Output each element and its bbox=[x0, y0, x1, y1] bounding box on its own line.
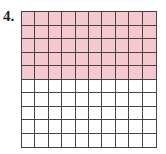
unshaded-cell bbox=[22, 80, 35, 94]
shaded-cell bbox=[143, 12, 156, 26]
shaded-cell bbox=[143, 26, 156, 40]
unshaded-cell bbox=[129, 120, 142, 134]
shaded-cell bbox=[129, 66, 142, 80]
unshaded-cell bbox=[76, 134, 89, 148]
unshaded-cell bbox=[35, 107, 48, 121]
shaded-cell bbox=[102, 53, 115, 67]
shaded-cell bbox=[89, 12, 102, 26]
unshaded-cell bbox=[89, 93, 102, 107]
shaded-cell bbox=[89, 39, 102, 53]
shaded-cell bbox=[22, 39, 35, 53]
shaded-cell bbox=[49, 12, 62, 26]
unshaded-cell bbox=[76, 80, 89, 94]
shaded-cell bbox=[116, 53, 129, 67]
unshaded-cell bbox=[49, 107, 62, 121]
shaded-cell bbox=[22, 12, 35, 26]
unshaded-cell bbox=[116, 80, 129, 94]
shaded-cell bbox=[102, 26, 115, 40]
unshaded-cell bbox=[35, 80, 48, 94]
unshaded-cell bbox=[49, 93, 62, 107]
shaded-cell bbox=[22, 26, 35, 40]
shaded-cell bbox=[49, 39, 62, 53]
unshaded-cell bbox=[76, 107, 89, 121]
unshaded-cell bbox=[102, 120, 115, 134]
unshaded-cell bbox=[102, 107, 115, 121]
unshaded-cell bbox=[49, 120, 62, 134]
unshaded-cell bbox=[22, 107, 35, 121]
shaded-cell bbox=[129, 53, 142, 67]
shaded-cell bbox=[129, 12, 142, 26]
unshaded-cell bbox=[22, 134, 35, 148]
unshaded-cell bbox=[76, 93, 89, 107]
shaded-cell bbox=[143, 66, 156, 80]
shaded-cell bbox=[89, 66, 102, 80]
shaded-cell bbox=[49, 66, 62, 80]
unshaded-cell bbox=[62, 107, 75, 121]
unshaded-cell bbox=[143, 93, 156, 107]
shaded-cell bbox=[22, 53, 35, 67]
shaded-cell bbox=[76, 53, 89, 67]
shaded-cell bbox=[143, 39, 156, 53]
unshaded-cell bbox=[116, 120, 129, 134]
unshaded-cell bbox=[35, 120, 48, 134]
unshaded-cell bbox=[35, 134, 48, 148]
shaded-cell bbox=[35, 53, 48, 67]
problem-number: 4. bbox=[3, 9, 14, 24]
shaded-cell bbox=[129, 39, 142, 53]
unshaded-cell bbox=[116, 107, 129, 121]
unshaded-cell bbox=[102, 134, 115, 148]
shaded-cell bbox=[102, 39, 115, 53]
unshaded-cell bbox=[129, 93, 142, 107]
hundred-grid bbox=[21, 11, 157, 148]
shaded-cell bbox=[49, 26, 62, 40]
unshaded-cell bbox=[62, 134, 75, 148]
shaded-cell bbox=[116, 26, 129, 40]
unshaded-cell bbox=[143, 120, 156, 134]
shaded-cell bbox=[22, 66, 35, 80]
shaded-cell bbox=[62, 12, 75, 26]
unshaded-cell bbox=[89, 134, 102, 148]
unshaded-cell bbox=[129, 107, 142, 121]
unshaded-cell bbox=[76, 120, 89, 134]
unshaded-cell bbox=[129, 80, 142, 94]
unshaded-cell bbox=[22, 93, 35, 107]
unshaded-cell bbox=[62, 80, 75, 94]
unshaded-cell bbox=[102, 93, 115, 107]
shaded-cell bbox=[76, 39, 89, 53]
unshaded-cell bbox=[35, 93, 48, 107]
unshaded-cell bbox=[49, 80, 62, 94]
shaded-cell bbox=[102, 12, 115, 26]
shaded-cell bbox=[143, 53, 156, 67]
shaded-cell bbox=[35, 26, 48, 40]
unshaded-cell bbox=[89, 80, 102, 94]
shaded-cell bbox=[76, 66, 89, 80]
shaded-cell bbox=[116, 66, 129, 80]
shaded-cell bbox=[35, 66, 48, 80]
unshaded-cell bbox=[89, 107, 102, 121]
shaded-cell bbox=[116, 39, 129, 53]
shaded-cell bbox=[62, 39, 75, 53]
unshaded-cell bbox=[102, 80, 115, 94]
unshaded-cell bbox=[49, 134, 62, 148]
shaded-cell bbox=[49, 53, 62, 67]
shaded-cell bbox=[129, 26, 142, 40]
shaded-cell bbox=[76, 12, 89, 26]
shaded-cell bbox=[35, 39, 48, 53]
unshaded-cell bbox=[116, 93, 129, 107]
unshaded-cell bbox=[129, 134, 142, 148]
shaded-cell bbox=[62, 66, 75, 80]
shaded-cell bbox=[116, 12, 129, 26]
unshaded-cell bbox=[143, 107, 156, 121]
unshaded-cell bbox=[143, 80, 156, 94]
unshaded-cell bbox=[22, 120, 35, 134]
shaded-cell bbox=[76, 26, 89, 40]
unshaded-cell bbox=[62, 93, 75, 107]
shaded-cell bbox=[35, 12, 48, 26]
unshaded-cell bbox=[143, 134, 156, 148]
unshaded-cell bbox=[89, 120, 102, 134]
shaded-cell bbox=[89, 53, 102, 67]
shaded-cell bbox=[102, 66, 115, 80]
shaded-cell bbox=[62, 26, 75, 40]
unshaded-cell bbox=[62, 120, 75, 134]
shaded-cell bbox=[89, 26, 102, 40]
